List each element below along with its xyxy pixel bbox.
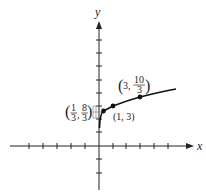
x-axis: x: [10, 139, 203, 153]
svg-text:(: (: [65, 103, 70, 121]
x-axis-label: x: [196, 139, 203, 153]
y-axis-label: y: [94, 5, 101, 19]
x-axis-arrow-icon: [186, 143, 194, 149]
label-point-one-third: ( 1 3 , 8 3 ): [65, 102, 92, 123]
point-three-ten-thirds: [138, 95, 143, 100]
label-point-one-three: (1, 3): [113, 111, 135, 123]
svg-text:): ): [87, 103, 92, 121]
label-point-three-ten-thirds: ( 3, 10 3 ): [118, 74, 150, 95]
svg-text:3: 3: [71, 112, 76, 123]
svg-text:3,: 3,: [123, 80, 131, 91]
point-one-three: [111, 104, 116, 109]
y-axis-arrow-icon: [96, 21, 102, 29]
function-graph: x y ( 1 3: [0, 0, 206, 195]
y-axis: y: [94, 5, 102, 190]
svg-text:,: ,: [77, 109, 80, 120]
svg-text:): ): [145, 77, 150, 95]
svg-text:3: 3: [137, 84, 142, 95]
point-one-third: [101, 109, 106, 114]
